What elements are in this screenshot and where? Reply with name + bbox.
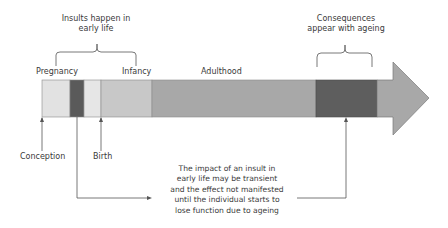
- consequences-title-line-2: appear with ageing: [296, 24, 396, 34]
- insults-title-line-1: Insults happen in: [56, 14, 136, 24]
- segment-infancy: [101, 80, 152, 117]
- impact-note: The impact of an insult in early life ma…: [160, 164, 294, 216]
- consequences-title: Consequences appear with ageing: [296, 14, 396, 34]
- stage-label-adulthood: Adulthood: [201, 67, 242, 77]
- insults-title-line-2: early life: [56, 24, 136, 34]
- consequence-connector-line: [297, 120, 346, 198]
- segment-ageing-consequences: [316, 80, 377, 117]
- consequence-connector-arrowhead-icon: [344, 117, 348, 122]
- stage-label-infancy: Infancy: [122, 67, 151, 77]
- conception-arrowhead-icon: [40, 117, 44, 122]
- event-label-conception: Conception: [20, 152, 65, 162]
- segment-pregnancy-late: [84, 80, 101, 117]
- impact-note-line: early life may be transient: [160, 174, 294, 184]
- insults-title: Insults happen in early life: [56, 14, 136, 34]
- event-label-birth: Birth: [93, 152, 112, 162]
- impact-note-line: until the individual starts to: [160, 195, 294, 205]
- stage-label-pregnancy: Pregnancy: [36, 67, 78, 77]
- consequences-title-line-1: Consequences: [296, 14, 396, 24]
- timeline-arrow-head: [377, 62, 429, 135]
- brace-consequences: [317, 45, 372, 67]
- birth-arrowhead-icon: [99, 117, 103, 122]
- segment-insult-window: [70, 80, 84, 117]
- impact-note-line: and the effect not manifested: [160, 185, 294, 195]
- impact-note-line: lose function due to ageing: [160, 206, 294, 216]
- brace-early-life: [56, 44, 136, 66]
- segment-pregnancy-early: [42, 80, 70, 117]
- insult-connector-line: [77, 117, 149, 198]
- impact-note-line: The impact of an insult in: [160, 164, 294, 174]
- insult-connector-arrowhead-icon: [147, 196, 152, 200]
- segment-adulthood: [152, 80, 316, 117]
